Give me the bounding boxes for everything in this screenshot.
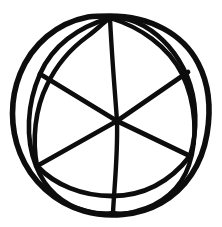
sphere-wireframe-figure: Hand-drawn sphere wireframe Black ink li… <box>0 0 222 227</box>
